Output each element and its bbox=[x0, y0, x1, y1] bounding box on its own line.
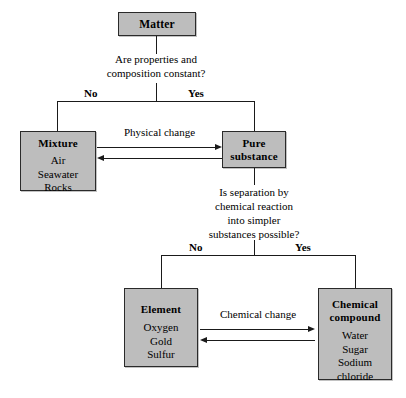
box-element-item-1: Gold bbox=[125, 335, 197, 349]
question-properties-constant: Are properties and composition constant? bbox=[56, 52, 256, 80]
box-mixture-item-2: Rocks bbox=[21, 181, 95, 195]
box-mixture-item-0: Air bbox=[21, 154, 95, 168]
arrow-chemical-change-reverse-line bbox=[207, 340, 315, 341]
question-separation-possible-line1: Is separation by bbox=[154, 185, 354, 199]
box-chemical-compound-title-line2: compound bbox=[319, 311, 391, 324]
branch-label-q2-yes: Yes bbox=[295, 241, 311, 253]
connector-branch2-right-drop bbox=[355, 255, 356, 289]
box-element[interactable]: Element Oxygen Gold Sulfur bbox=[124, 288, 198, 367]
box-element-item-0: Oxygen bbox=[125, 321, 197, 335]
box-mixture-item-1: Seawater bbox=[21, 168, 95, 182]
connector-branch1-left-drop bbox=[57, 101, 58, 132]
box-matter[interactable]: Matter bbox=[118, 12, 196, 36]
box-chemical-compound-item-3: chloride bbox=[319, 370, 391, 384]
box-element-item-2: Sulfur bbox=[125, 348, 197, 362]
box-chemical-compound[interactable]: Chemical compound Water Sugar Sodium chl… bbox=[318, 288, 392, 380]
branch-label-q2-no: No bbox=[189, 241, 202, 253]
box-chemical-compound-title-line1: Chemical bbox=[319, 298, 391, 311]
box-mixture[interactable]: Mixture Air Seawater Rocks bbox=[20, 131, 96, 191]
box-mixture-items: Air Seawater Rocks bbox=[21, 154, 95, 195]
label-chemical-change: Chemical change bbox=[198, 308, 318, 320]
box-pure-substance-title-line2: substance bbox=[230, 150, 278, 163]
box-mixture-title: Mixture bbox=[21, 137, 95, 150]
arrow-physical-change-forward-line bbox=[97, 147, 215, 148]
question-separation-possible-line3: into simpler bbox=[154, 213, 354, 227]
question-separation-possible-line4: substances possible? bbox=[154, 227, 354, 241]
box-element-title: Element bbox=[125, 303, 197, 316]
question-separation-possible-line2: chemical reaction bbox=[154, 199, 354, 213]
box-chemical-compound-item-2: Sodium bbox=[319, 356, 391, 370]
label-physical-change: Physical change bbox=[97, 126, 222, 138]
arrow-physical-change-reverse-head bbox=[97, 155, 104, 161]
question-properties-constant-line1: Are properties and bbox=[56, 52, 256, 66]
box-pure-substance-title-line1: Pure bbox=[230, 137, 278, 150]
box-matter-title: Matter bbox=[139, 18, 175, 31]
connector-branch1-bar bbox=[57, 101, 255, 102]
question-properties-constant-line2: composition constant? bbox=[56, 66, 256, 80]
arrow-physical-change-reverse-line bbox=[104, 158, 222, 159]
box-chemical-compound-item-1: Sugar bbox=[319, 343, 391, 357]
flowchart-canvas: Matter Are properties and composition co… bbox=[0, 0, 406, 398]
box-chemical-compound-items: Water Sugar Sodium chloride bbox=[319, 329, 391, 383]
question-separation-possible: Is separation by chemical reaction into … bbox=[154, 185, 354, 241]
connector-pure-stem bbox=[254, 168, 255, 185]
connector-branch2-left-drop bbox=[161, 255, 162, 289]
branch-label-q1-yes: Yes bbox=[188, 87, 204, 99]
box-element-items: Oxygen Gold Sulfur bbox=[125, 321, 197, 362]
box-chemical-compound-item-0: Water bbox=[319, 329, 391, 343]
connector-branch2-bar bbox=[161, 255, 355, 256]
box-pure-substance-title: Pure substance bbox=[230, 137, 278, 163]
arrow-chemical-change-reverse-head bbox=[200, 337, 207, 343]
box-chemical-compound-title: Chemical compound bbox=[319, 298, 391, 324]
connector-branch1-right-drop bbox=[254, 101, 255, 132]
arrow-chemical-change-forward-line bbox=[200, 329, 308, 330]
branch-label-q1-no: No bbox=[84, 87, 97, 99]
connector-q1-stem bbox=[156, 83, 157, 101]
arrow-physical-change-forward-head bbox=[215, 144, 222, 150]
arrow-chemical-change-forward-head bbox=[308, 326, 315, 332]
box-pure-substance[interactable]: Pure substance bbox=[222, 131, 286, 168]
connector-q2-stem bbox=[254, 240, 255, 255]
